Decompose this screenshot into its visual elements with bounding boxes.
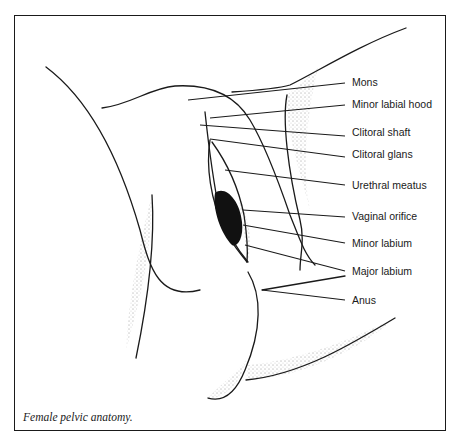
label-minor-labium: Minor labium [352,237,412,249]
label-minor-labial-hood: Minor labial hood [352,98,432,110]
label-clitoral-shaft: Clitoral shaft [352,126,410,138]
label-urethral-meatus: Urethral meatus [352,179,427,191]
anatomy-line-drawing [0,0,456,448]
label-clitoral-glans: Clitoral glans [352,148,413,160]
label-anus: Anus [352,294,376,306]
label-major-labium: Major labium [352,265,412,277]
figure-caption: Female pelvic anatomy. [23,411,133,423]
label-mons: Mons [352,76,378,88]
label-vaginal-orifice: Vaginal orifice [352,210,417,222]
